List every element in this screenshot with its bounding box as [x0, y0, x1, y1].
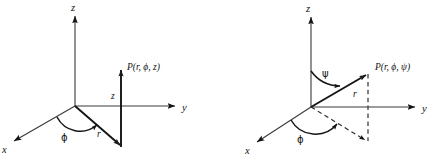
azimuth-angle-arc — [291, 120, 337, 134]
point-label-P: P(r, ϕ, z) — [126, 62, 160, 73]
y-axis-label: y — [421, 103, 427, 114]
radial-label-r: r — [97, 129, 101, 139]
radial-distance-vector — [75, 106, 120, 145]
z-axis-label: z — [70, 2, 75, 13]
x-axis-label: x — [244, 145, 250, 156]
cylindrical-coordinates-diagram: z y x P(r, ϕ, z) z r ϕ — [1, 2, 187, 155]
point-label-P: P(r, ϕ, ψ) — [374, 62, 410, 73]
x-axis-label: x — [1, 144, 7, 155]
height-label-z: z — [110, 91, 115, 101]
azimuth-label-phi: ϕ — [297, 134, 304, 145]
y-axis-label: y — [181, 102, 187, 113]
radius-label-r: r — [353, 89, 357, 99]
azimuth-label-phi: ϕ — [61, 132, 68, 143]
z-axis-label: z — [305, 3, 310, 14]
spherical-coordinates-diagram: z y x P(r, ϕ, ψ) r ψ ϕ — [244, 3, 427, 156]
ground-projection-dashed — [311, 107, 365, 140]
coordinate-systems-figure: z y x P(r, ϕ, z) z r ϕ z y x P(r, ϕ, ψ) … — [0, 0, 440, 159]
polar-label-psi: ψ — [322, 68, 329, 79]
